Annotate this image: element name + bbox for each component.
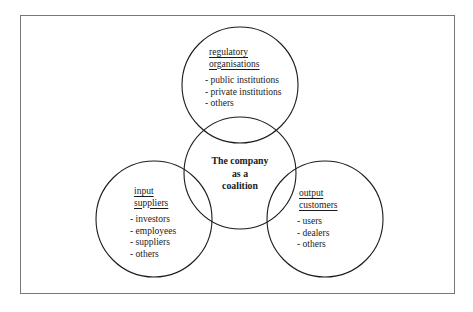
node-input-heading-line-2: suppliers xyxy=(134,198,218,210)
node-regulatory-heading-line-2: organisations xyxy=(209,59,305,71)
center-label-line-3: coalition xyxy=(190,180,290,193)
list-item: - others xyxy=(297,239,387,251)
list-item: - suppliers xyxy=(130,237,218,249)
list-item: - others xyxy=(130,249,218,261)
list-item: - users xyxy=(297,216,387,228)
node-input-suppliers: input suppliers - investors - employees … xyxy=(126,186,218,260)
list-item: - others xyxy=(205,98,305,110)
node-input-list: - investors - employees - suppliers - ot… xyxy=(130,214,218,260)
list-item: - investors xyxy=(130,214,218,226)
node-regulatory-heading: regulatory organisations xyxy=(209,47,305,70)
node-output-heading: output customers xyxy=(299,188,387,211)
venn-diagram-canvas: regulatory organisations - public instit… xyxy=(0,0,473,312)
center-label-line-1: The company xyxy=(190,155,290,168)
node-regulatory-organisations: regulatory organisations - public instit… xyxy=(205,47,305,110)
list-item: - dealers xyxy=(297,228,387,240)
node-regulatory-list: - public institutions - private institut… xyxy=(205,75,305,110)
node-output-heading-line-2: customers xyxy=(299,200,387,212)
node-output-customers: output customers - users - dealers - oth… xyxy=(295,188,387,251)
node-company-as-coalition: The company as a coalition xyxy=(190,155,290,193)
list-item: - public institutions xyxy=(205,75,305,87)
list-item: - private institutions xyxy=(205,87,305,99)
node-regulatory-heading-line-1: regulatory xyxy=(209,47,305,59)
center-label-line-2: as a xyxy=(190,168,290,181)
list-item: - employees xyxy=(130,226,218,238)
node-output-list: - users - dealers - others xyxy=(297,216,387,251)
node-output-heading-line-1: output xyxy=(299,188,387,200)
